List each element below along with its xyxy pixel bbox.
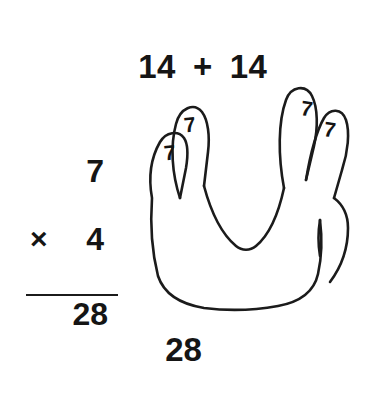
thumb-crease-path xyxy=(319,220,321,256)
vertical-multiplication: 7 ×4 28 xyxy=(26,155,118,332)
plus-sign-icon: + xyxy=(193,50,213,83)
worksheet-page: 14+14 7 ×4 28 7 7 7 7 xyxy=(0,0,367,393)
middle-left-finger-path xyxy=(204,186,284,250)
multiplication-sign-icon: × xyxy=(30,223,48,255)
finger-label-pinky: 7 xyxy=(163,141,177,163)
top-equation-right-addend: 14 xyxy=(230,50,268,83)
hand-drawing xyxy=(128,80,363,315)
bottom-answer: 28 xyxy=(0,333,367,366)
top-equation-left-addend: 14 xyxy=(138,50,176,83)
multiplier-row: ×4 xyxy=(26,189,118,291)
finger-label-ring: 7 xyxy=(183,113,197,135)
thumb-path xyxy=(330,198,348,282)
multiplicand: 7 xyxy=(26,155,118,189)
multiplication-product: 28 xyxy=(26,298,118,332)
multiplier: 4 xyxy=(86,221,104,257)
